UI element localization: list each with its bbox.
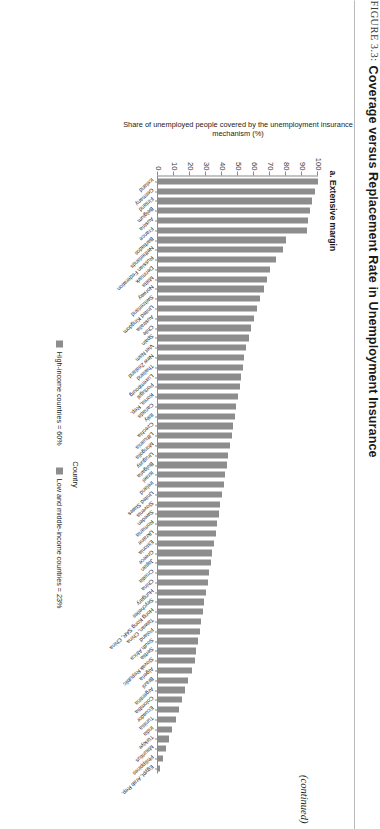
bar-item: Mongolia xyxy=(158,440,318,450)
x-axis-line xyxy=(157,175,158,773)
bar xyxy=(158,549,212,555)
y-tick-label: 10 xyxy=(170,162,179,170)
y-tick-label: 70 xyxy=(266,162,275,170)
y-tick-label: 90 xyxy=(298,162,307,170)
legend-label: Low and middle-income countries = 23% xyxy=(55,478,64,608)
bar xyxy=(158,256,276,262)
bar xyxy=(158,598,204,604)
chart-plot-area: 0102030405060708090100 Share of unemploy… xyxy=(158,175,318,773)
figure-page: FIGURE 3.3: Coverage versus Replacement … xyxy=(0,0,380,829)
bar xyxy=(158,726,172,732)
bar-item: Germany xyxy=(158,186,318,196)
bar xyxy=(158,716,176,722)
bar xyxy=(158,471,225,477)
bar-item: Tunisia xyxy=(158,714,318,724)
bar-item: Japan xyxy=(158,557,318,567)
bar-item: Ecuador xyxy=(158,704,318,714)
bar xyxy=(158,315,254,321)
bar xyxy=(158,236,286,242)
bar-item: Croatia xyxy=(158,567,318,577)
bar xyxy=(158,461,227,467)
bar-item: Luxembourg xyxy=(158,372,318,382)
bar xyxy=(158,628,200,634)
legend-label: High-income countries = 60% xyxy=(55,351,64,445)
bar xyxy=(158,295,260,301)
bar-item: South Africa xyxy=(158,636,318,646)
bar-item: China xyxy=(158,577,318,587)
bar xyxy=(158,276,267,282)
bar-item: Chile xyxy=(158,323,318,333)
bar xyxy=(158,696,182,702)
bar xyxy=(158,305,257,311)
bar xyxy=(158,559,211,565)
y-tick-label: 40 xyxy=(218,162,227,170)
bar-item: Canada xyxy=(158,401,318,411)
bar-item: Philippines xyxy=(158,753,318,763)
y-tick-label: 50 xyxy=(234,162,243,170)
y-tick-label: 20 xyxy=(186,162,195,170)
bar-item: Taiwan, China xyxy=(158,616,318,626)
bar xyxy=(158,354,244,360)
y-tick-label: 0 xyxy=(154,166,163,170)
bar xyxy=(158,197,312,203)
y-tick-mark xyxy=(253,171,254,175)
bar xyxy=(158,442,230,448)
bar-item: Poland xyxy=(158,626,318,636)
panel-label: a. Extensive margin xyxy=(328,170,338,251)
bar xyxy=(158,765,160,771)
bar-item: Hungary xyxy=(158,587,318,597)
bar-item: Israel xyxy=(158,469,318,479)
bar xyxy=(158,618,201,624)
bar xyxy=(158,227,307,233)
bar xyxy=(158,393,238,399)
bar-item: Romania xyxy=(158,518,318,528)
bar-item: Switzerland xyxy=(158,293,318,303)
bar-item: Slovak Republic xyxy=(158,655,318,665)
bar-item: Serbia xyxy=(158,646,318,656)
bar-item: Czechia xyxy=(158,421,318,431)
bar xyxy=(158,491,222,497)
bar-item: Austria xyxy=(158,215,318,225)
bar-item: Türkiye xyxy=(158,734,318,744)
y-tick-label: 100 xyxy=(314,157,323,170)
bar-item: Estonia xyxy=(158,538,318,548)
bar-item: Hong Kong SAR, China xyxy=(158,606,318,616)
bar xyxy=(158,207,310,213)
bar-item: Viet Nam xyxy=(158,342,318,352)
bar-item: Australia xyxy=(158,313,318,323)
bar-item: Korea, Rep. xyxy=(158,391,318,401)
bar-item: Netherlands xyxy=(158,244,318,254)
y-tick-mark xyxy=(157,171,158,175)
bar-item: Greece xyxy=(158,548,318,558)
y-tick-label: 30 xyxy=(202,162,211,170)
bar xyxy=(158,324,251,330)
bar-item: Uruguay xyxy=(158,450,318,460)
bar-item: Iceland xyxy=(158,176,318,186)
bar xyxy=(158,266,270,272)
legend-item: Low and middle-income countries = 23% xyxy=(55,467,64,608)
bar xyxy=(158,246,283,252)
y-tick-label: 60 xyxy=(250,162,259,170)
chart-legend: High-income countries = 60%Low and middl… xyxy=(55,175,64,773)
bar-item: Egypt, Arab Rep. xyxy=(158,763,318,773)
bar-item: United Kingdom xyxy=(158,303,318,313)
bar-item: Ukraine xyxy=(158,528,318,538)
figure-label: FIGURE 3.3: xyxy=(369,0,380,61)
bar xyxy=(158,481,224,487)
bar-item: Norway xyxy=(158,284,318,294)
bar-item: Spain xyxy=(158,333,318,343)
bar-item: Thailand xyxy=(158,362,318,372)
bar-item: France xyxy=(158,225,318,235)
bar-item: Italy xyxy=(158,411,318,421)
bar xyxy=(158,579,208,585)
bar-item: Ireland xyxy=(158,479,318,489)
bar xyxy=(158,520,217,526)
y-tick-mark xyxy=(269,171,270,175)
bar-item: Malta xyxy=(158,274,318,284)
y-tick-mark xyxy=(301,171,302,175)
bar xyxy=(158,501,220,507)
bar xyxy=(158,413,235,419)
bar xyxy=(158,373,241,379)
bar xyxy=(158,344,246,350)
bar-item: Denmark xyxy=(158,264,318,274)
